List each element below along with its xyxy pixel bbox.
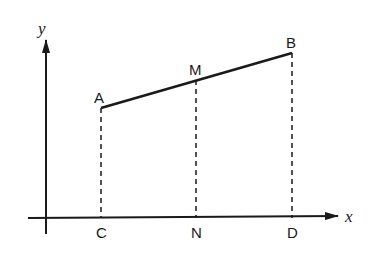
point-label-b: B: [286, 34, 296, 51]
point-label-c: C: [96, 224, 107, 241]
point-label-n: N: [191, 224, 202, 241]
coordinate-diagram: y x A M B C N D: [0, 0, 369, 253]
diagram-canvas: y x A M B C N D: [0, 0, 369, 253]
y-axis-label: y: [36, 19, 46, 38]
point-label-a: A: [94, 89, 104, 106]
point-label-d: D: [287, 224, 298, 241]
point-label-m: M: [189, 61, 202, 78]
x-axis-label: x: [344, 207, 353, 226]
